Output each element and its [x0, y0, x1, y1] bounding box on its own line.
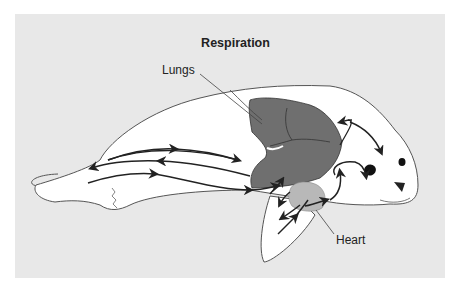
diagram-title: Respiration — [0, 36, 457, 50]
heart-leader-line — [316, 210, 334, 234]
seal-eye-icon — [399, 158, 406, 166]
heart-label: Heart — [336, 233, 365, 247]
seal-body — [35, 86, 418, 210]
lungs-label: Lungs — [162, 63, 195, 77]
heart-shape — [289, 182, 325, 211]
